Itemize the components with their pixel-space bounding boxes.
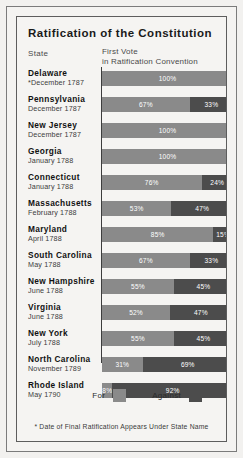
state-ratification-date: January 1788 [28, 182, 100, 191]
chart-row: PennsylvaniaDecember 178767%33% [17, 93, 226, 119]
stacked-bar: 52%47% [102, 305, 227, 320]
state-ratification-date: April 1788 [28, 234, 100, 243]
state-name: New York [28, 328, 100, 338]
stacked-bar: 55%45% [102, 331, 227, 346]
chart-row: VirginiaJune 178852%47% [17, 301, 226, 327]
bar-segment-for: 100% [102, 71, 227, 86]
bar-segment-for: 52% [102, 305, 170, 320]
bar-segment-for: 76% [102, 175, 202, 190]
state-date-text: July 1788 [28, 338, 60, 347]
bar-segment-for: 55% [102, 279, 174, 294]
state-label-group: South CarolinaMay 1788 [28, 250, 100, 269]
state-name: South Carolina [28, 250, 100, 260]
state-name: Pennsylvania [28, 94, 100, 104]
bar-segment-for: 67% [102, 97, 190, 112]
bar-segment-against: 69% [143, 357, 227, 372]
legend-swatch-for [113, 389, 126, 402]
state-ratification-date: June 1788 [28, 286, 100, 295]
bar-segment-against: 24% [202, 175, 227, 190]
bar-segment-for: 31% [102, 357, 143, 372]
state-ratification-date: December 1787 [28, 104, 100, 113]
state-date-text: January 1788 [28, 156, 73, 165]
state-ratification-date: February 1788 [28, 208, 100, 217]
chart-row: New HampshireJune 178855%45% [17, 275, 226, 301]
bar-segment-for: 67% [102, 253, 190, 268]
stacked-bar: 53%47% [102, 201, 227, 216]
state-name: Delaware [28, 68, 100, 78]
chart-row: Delaware*December 1787100% [17, 67, 226, 93]
legend-label-against: Against [150, 391, 183, 400]
stacked-bar: 85%15% [102, 227, 227, 242]
state-ratification-date: December 1787 [28, 130, 100, 139]
state-ratification-date: January 1788 [28, 156, 100, 165]
chart-title: Ratification of the Constitution [28, 27, 212, 39]
state-date-text: December 1787 [28, 130, 81, 139]
state-label-group: ConnecticutJanuary 1788 [28, 172, 100, 191]
legend-swatch-against [189, 389, 202, 402]
state-label-group: New YorkJuly 1788 [28, 328, 100, 347]
state-name: Massachusetts [28, 198, 100, 208]
bar-segment-against: 45% [174, 331, 227, 346]
state-ratification-date: July 1788 [28, 338, 100, 347]
state-label-group: PennsylvaniaDecember 1787 [28, 94, 100, 113]
state-name: Virginia [28, 302, 100, 312]
state-label-group: New JerseyDecember 1787 [28, 120, 100, 139]
chart-row: GeorgiaJanuary 1788100% [17, 145, 226, 171]
bar-segment-for: 100% [102, 149, 227, 164]
chart-row: New JerseyDecember 1787100% [17, 119, 226, 145]
stacked-bar: 76%24% [102, 175, 227, 190]
bar-segment-against: 47% [170, 305, 227, 320]
bar-segment-against: 33% [190, 253, 227, 268]
bar-segment-against: 33% [190, 97, 227, 112]
bar-segment-against: 15% [213, 227, 227, 242]
bar-segment-for: 55% [102, 331, 174, 346]
state-ratification-date: June 1788 [28, 312, 100, 321]
state-label-group: North CarolinaNovember 1789 [28, 354, 100, 373]
chart-row: MassachusettsFebruary 178853%47% [17, 197, 226, 223]
chart-row: North CarolinaNovember 178931%69% [17, 353, 226, 379]
state-date-text: December 1787 [31, 78, 84, 87]
state-date-text: November 1789 [28, 364, 81, 373]
stacked-bar: 67%33% [102, 97, 227, 112]
chart-row: ConnecticutJanuary 178876%24% [17, 171, 226, 197]
state-label-group: VirginiaJune 1788 [28, 302, 100, 321]
chart-footnote: * Date of Final Ratification Appears Und… [17, 423, 226, 430]
state-label-group: Delaware*December 1787 [28, 68, 100, 87]
state-date-text: June 1788 [28, 286, 63, 295]
state-ratification-date: *December 1787 [28, 78, 100, 87]
state-name: Connecticut [28, 172, 100, 182]
state-date-text: May 1788 [28, 260, 61, 269]
legend-label-for: For [90, 391, 107, 400]
state-ratification-date: November 1789 [28, 364, 100, 373]
stacked-bar: 100% [102, 71, 227, 86]
state-name: Maryland [28, 224, 100, 234]
state-date-text: December 1787 [28, 104, 81, 113]
state-date-text: June 1788 [28, 312, 63, 321]
state-name: North Carolina [28, 354, 100, 364]
column-header-first-vote-line2: in Ratification Convention [102, 57, 198, 67]
column-header-first-vote: First Vote in Ratification Convention [102, 47, 198, 67]
stacked-bar: 100% [102, 149, 227, 164]
state-date-text: February 1788 [28, 208, 77, 217]
stacked-bar: 100% [102, 123, 227, 138]
state-name: New Jersey [28, 120, 100, 130]
bar-segment-for: 85% [102, 227, 213, 242]
poster-background: Ratification of the Constitution State F… [0, 0, 243, 458]
state-ratification-date: May 1788 [28, 260, 100, 269]
state-label-group: GeorgiaJanuary 1788 [28, 146, 100, 165]
bar-segment-against: 45% [174, 279, 227, 294]
chart-row: New YorkJuly 178855%45% [17, 327, 226, 353]
bar-segment-for: 100% [102, 123, 227, 138]
state-name: Georgia [28, 146, 100, 156]
state-label-group: New HampshireJune 1788 [28, 276, 100, 295]
column-header-state: State [28, 49, 48, 58]
chart-row: South CarolinaMay 178867%33% [17, 249, 226, 275]
bar-segment-for: 53% [102, 201, 171, 216]
chart-legend: For Against [17, 389, 226, 409]
column-header-first-vote-line1: First Vote [102, 47, 198, 57]
state-label-group: MarylandApril 1788 [28, 224, 100, 243]
state-date-text: January 1788 [28, 182, 73, 191]
outer-frame: Ratification of the Constitution State F… [6, 6, 237, 452]
bar-segment-against: 47% [171, 201, 227, 216]
chart-rows-container: Delaware*December 1787100%PennsylvaniaDe… [17, 67, 226, 405]
